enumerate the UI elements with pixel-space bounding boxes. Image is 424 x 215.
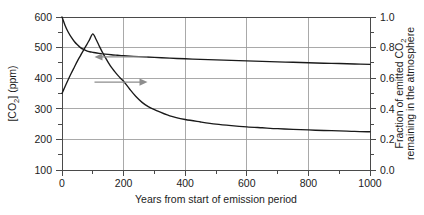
- right-tick-label: 0.0: [380, 164, 395, 176]
- x-tick-label: 800: [300, 177, 318, 189]
- right-tick-label: 1.0: [380, 11, 395, 23]
- left-tick-label: 600: [34, 11, 52, 23]
- co2-decay-chart: 600 500 400 300 200 100 1.0 0.8 0.6 0.4 …: [0, 0, 424, 215]
- left-tick-label: 500: [34, 41, 52, 53]
- left-tick-label: 100: [34, 164, 52, 176]
- left-axis-title-head: [CO: [6, 103, 18, 122]
- chart-figure: 600 500 400 300 200 100 1.0 0.8 0.6 0.4 …: [0, 0, 424, 215]
- x-tick-label: 0: [59, 177, 65, 189]
- x-tick-label: 1000: [358, 177, 382, 189]
- left-tick-label: 300: [34, 103, 52, 115]
- left-tick-label: 400: [34, 72, 52, 84]
- x-tick-label: 400: [176, 177, 194, 189]
- right-axis-title: Fraction of emitted CO2 remaining in the…: [393, 27, 416, 160]
- x-tick-label: 200: [115, 177, 133, 189]
- left-tick-label: 200: [34, 133, 52, 145]
- x-axis-title: Years from start of emission period: [135, 193, 297, 205]
- right-axis-title-line2: remaining in the atmosphere: [404, 27, 416, 160]
- left-axis-title-tail: ] (ppm): [6, 65, 18, 98]
- x-tick-label: 600: [238, 177, 256, 189]
